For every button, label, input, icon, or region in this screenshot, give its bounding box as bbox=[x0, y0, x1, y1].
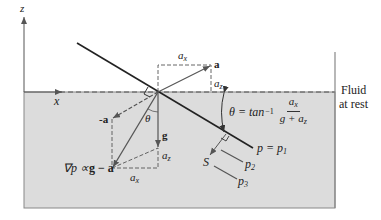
diagram-canvas bbox=[0, 0, 381, 220]
fluid-label-line1: Fluid bbox=[341, 84, 366, 96]
formula-fraction: ax g + az bbox=[278, 95, 309, 128]
p1-label: p = p1 bbox=[257, 142, 287, 156]
grad-p-label: ∇p ∝g − a bbox=[63, 162, 114, 174]
a-vector-label: a bbox=[214, 59, 220, 70]
theta-formula: θ = tan−1 ax g + az bbox=[229, 95, 309, 128]
p3-label: p3 bbox=[238, 175, 248, 189]
a-x-bottom-label: ax bbox=[130, 172, 139, 185]
g-label: g bbox=[162, 130, 168, 141]
a-z-bottom-label: az bbox=[162, 150, 171, 163]
a-vector bbox=[158, 66, 210, 92]
formula-numerator: ax bbox=[287, 95, 300, 112]
neg-a-label: -a bbox=[99, 114, 108, 125]
p2-label: p2 bbox=[245, 158, 255, 172]
z-axis-label: z bbox=[20, 3, 24, 14]
fluid-label-line2: at rest bbox=[339, 98, 368, 110]
theta-label: θ bbox=[145, 113, 150, 124]
a-z-top-label: az bbox=[214, 78, 223, 91]
s-label: S bbox=[203, 156, 209, 168]
x-axis-label: x bbox=[54, 95, 59, 107]
formula-denominator: g + az bbox=[278, 112, 309, 128]
a-x-top-label: ax bbox=[178, 50, 187, 63]
